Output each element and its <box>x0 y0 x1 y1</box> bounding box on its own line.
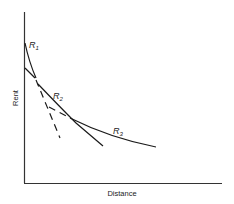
r1-curve-dashed <box>36 80 60 138</box>
r3-label: R3 <box>113 126 124 137</box>
r3-curve-dashed <box>49 107 70 118</box>
r1-label: R1 <box>29 40 39 51</box>
y-axis-title: Rent <box>11 89 20 106</box>
r2-label: R2 <box>53 91 64 102</box>
r2-curve-solid <box>38 84 103 146</box>
bid-rent-chart: R1 R2 R3 Distance Rent <box>0 0 234 204</box>
x-axis-title: Distance <box>107 189 136 198</box>
